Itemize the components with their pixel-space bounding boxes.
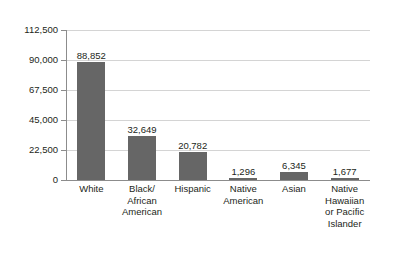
x-axis-label-line: African — [117, 195, 168, 207]
x-axis-label-line: Native — [319, 183, 370, 195]
bar-value-label: 88,852 — [77, 50, 106, 61]
bar-slot: 1,296 — [218, 30, 269, 180]
x-axis-label-line: Hawaiian — [319, 195, 370, 207]
bar[interactable] — [128, 136, 156, 180]
bar-slot: 6,345 — [269, 30, 320, 180]
y-axis-tick-label: 45,000 — [0, 115, 58, 125]
bar-value-label: 1,296 — [231, 166, 255, 177]
bar[interactable] — [331, 178, 359, 180]
x-axis-category-label: Hispanic — [167, 183, 218, 195]
bar-chart: 022,50045,00067,50090,000112,500 88,8523… — [0, 0, 394, 259]
bar-value-label: 1,677 — [333, 166, 357, 177]
bar-value-label: 20,782 — [178, 140, 207, 151]
bar-slot: 20,782 — [167, 30, 218, 180]
y-axis-tick-label: 67,500 — [0, 85, 58, 95]
y-axis-tick-label: 0 — [0, 175, 58, 185]
y-axis-tick-label: 112,500 — [0, 25, 58, 35]
y-axis-tick-label: 90,000 — [0, 55, 58, 65]
x-axis-label-line: Asian — [269, 183, 320, 195]
bar-value-label: 32,649 — [127, 124, 156, 135]
x-axis-label-line: Black/ — [117, 183, 168, 195]
bar[interactable] — [179, 152, 207, 180]
x-axis-label-line: White — [66, 183, 117, 195]
x-axis-label-line: American — [218, 195, 269, 207]
x-axis-label-line: or Pacific — [319, 206, 370, 218]
x-axis-label-line: Islander — [319, 218, 370, 230]
x-axis-category-label: Asian — [269, 183, 320, 195]
bar-value-label: 6,345 — [282, 160, 306, 171]
bars-layer: 88,85232,64920,7821,2966,3451,677 — [66, 30, 370, 180]
y-axis-tick-label: 22,500 — [0, 145, 58, 155]
x-axis-category-label: NativeHawaiianor PacificIslander — [319, 183, 370, 229]
x-axis-line — [66, 180, 370, 181]
bar[interactable] — [77, 62, 105, 180]
x-axis-label-line: Hispanic — [167, 183, 218, 195]
bar-slot: 1,677 — [319, 30, 370, 180]
x-axis-label-line: American — [117, 206, 168, 218]
bar-slot: 88,852 — [66, 30, 117, 180]
x-axis-category-label: NativeAmerican — [218, 183, 269, 206]
x-axis-category-label: Black/AfricanAmerican — [117, 183, 168, 218]
x-axis-label-line: Native — [218, 183, 269, 195]
bar-slot: 32,649 — [117, 30, 168, 180]
x-axis-category-labels: WhiteBlack/AfricanAmericanHispanicNative… — [66, 183, 370, 257]
x-axis-category-label: White — [66, 183, 117, 195]
bar[interactable] — [280, 172, 308, 180]
bar[interactable] — [229, 178, 257, 180]
